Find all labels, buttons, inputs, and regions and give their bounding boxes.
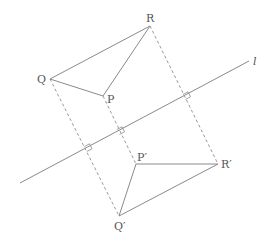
label-p-prime: P′: [137, 151, 147, 164]
mirror-line-l: [20, 61, 249, 183]
triangle-pqr: [50, 26, 150, 96]
triangle-pqr-prime: [119, 164, 218, 216]
reflection-diagram: Q P R P′ R′ Q′ l: [0, 0, 273, 247]
label-q-prime: Q′: [114, 220, 126, 233]
label-q: Q: [37, 73, 46, 86]
label-r-prime: R′: [221, 158, 232, 171]
label-r: R: [146, 12, 155, 25]
perpendicular-r: [150, 26, 218, 164]
label-p: P: [107, 93, 115, 106]
label-line-l: l: [253, 55, 257, 68]
